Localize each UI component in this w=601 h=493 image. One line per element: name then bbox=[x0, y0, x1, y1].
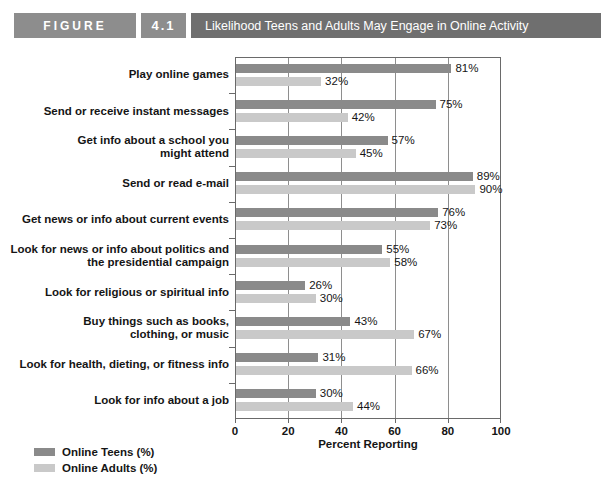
bar-value-label: 31% bbox=[322, 353, 345, 362]
bar-group-teens: 57% bbox=[236, 136, 415, 145]
category-label: Look for health, dieting, or fitness inf… bbox=[9, 358, 229, 372]
bar-group-teens: 26% bbox=[236, 281, 332, 290]
bar-adults[interactable] bbox=[236, 221, 430, 230]
legend-item[interactable]: Online Teens (%) bbox=[34, 444, 157, 459]
bar-teens[interactable] bbox=[236, 317, 350, 326]
chart-row: Play online games81%32% bbox=[0, 57, 601, 93]
category-label: Buy things such as books,clothing, or mu… bbox=[9, 315, 229, 342]
bar-teens[interactable] bbox=[236, 64, 451, 73]
bar-teens[interactable] bbox=[236, 100, 436, 109]
figure-word-box: FIGURE bbox=[14, 13, 136, 38]
bar-value-label: 89% bbox=[477, 172, 500, 181]
x-tick-label: 0 bbox=[232, 425, 238, 437]
bar-adults[interactable] bbox=[236, 330, 414, 339]
category-label: Look for religious or spiritual info bbox=[9, 286, 229, 300]
x-tick-label: 40 bbox=[335, 425, 348, 437]
bar-group-teens: 43% bbox=[236, 317, 377, 326]
bar-group-teens: 31% bbox=[236, 353, 345, 362]
category-label: Play online games bbox=[9, 68, 229, 82]
tick-mark-80 bbox=[448, 419, 449, 423]
chart-row: Look for health, dieting, or fitness inf… bbox=[0, 347, 601, 383]
bar-group-adults: 42% bbox=[236, 113, 375, 122]
x-tick-label: 80 bbox=[441, 425, 454, 437]
y-axis-tick bbox=[229, 347, 235, 348]
legend-item[interactable]: Online Adults (%) bbox=[34, 460, 157, 475]
bar-group-adults: 58% bbox=[236, 258, 417, 267]
bar-teens[interactable] bbox=[236, 353, 318, 362]
category-label: Look for news or info about politics and… bbox=[9, 243, 229, 270]
bar-teens[interactable] bbox=[236, 281, 305, 290]
bar-teens[interactable] bbox=[236, 389, 316, 398]
y-axis-tick bbox=[229, 310, 235, 311]
row-bars: 43%67% bbox=[236, 310, 601, 346]
y-axis-tick bbox=[229, 93, 235, 94]
bar-group-teens: 30% bbox=[236, 389, 343, 398]
category-label: Get news or info about current events bbox=[9, 213, 229, 227]
tick-mark-100 bbox=[500, 419, 501, 423]
bar-value-label: 67% bbox=[418, 330, 441, 339]
bar-group-teens: 89% bbox=[236, 172, 500, 181]
bar-value-label: 44% bbox=[357, 402, 380, 411]
chart-row: Get news or info about current events76%… bbox=[0, 202, 601, 238]
figure-number-box: 4.1 bbox=[141, 13, 186, 38]
bar-value-label: 90% bbox=[479, 185, 502, 194]
bar-value-label: 73% bbox=[434, 221, 457, 230]
y-axis-tick bbox=[229, 202, 235, 203]
bar-adults[interactable] bbox=[236, 258, 390, 267]
category-label: Look for info about a job bbox=[9, 394, 229, 408]
bar-adults[interactable] bbox=[236, 77, 321, 86]
chart-row: Buy things such as books,clothing, or mu… bbox=[0, 310, 601, 346]
bar-value-label: 58% bbox=[394, 258, 417, 267]
bar-value-label: 42% bbox=[352, 113, 375, 122]
bar-adults[interactable] bbox=[236, 402, 353, 411]
row-bars: 55%58% bbox=[236, 238, 601, 274]
y-axis-tick bbox=[229, 238, 235, 239]
bar-group-adults: 45% bbox=[236, 149, 383, 158]
y-axis-tick bbox=[229, 166, 235, 167]
y-axis-tick bbox=[229, 383, 235, 384]
bar-rows: Play online games81%32%Send or receive i… bbox=[0, 57, 601, 419]
bar-teens[interactable] bbox=[236, 172, 473, 181]
bar-teens[interactable] bbox=[236, 245, 382, 254]
y-axis-tick bbox=[229, 129, 235, 130]
bar-value-label: 81% bbox=[455, 64, 478, 73]
row-bars: 81%32% bbox=[236, 57, 601, 93]
category-label: Send or read e-mail bbox=[9, 177, 229, 191]
bar-value-label: 57% bbox=[392, 136, 415, 145]
figure-header-band: FIGURE 4.1 Likelihood Teens and Adults M… bbox=[0, 13, 601, 38]
bar-adults[interactable] bbox=[236, 149, 356, 158]
chart-row: Send or receive instant messages75%42% bbox=[0, 93, 601, 129]
bar-group-teens: 75% bbox=[236, 100, 463, 109]
bar-value-label: 30% bbox=[320, 389, 343, 398]
row-bars: 75%42% bbox=[236, 93, 601, 129]
bar-teens[interactable] bbox=[236, 136, 388, 145]
chart-row: Look for news or info about politics and… bbox=[0, 238, 601, 274]
row-bars: 26%30% bbox=[236, 274, 601, 310]
legend-swatch bbox=[34, 464, 55, 472]
bar-value-label: 26% bbox=[309, 281, 332, 290]
row-bars: 57%45% bbox=[236, 129, 601, 165]
row-bars: 30%44% bbox=[236, 383, 601, 419]
bar-adults[interactable] bbox=[236, 366, 412, 375]
chart-container: Play online games81%32%Send or receive i… bbox=[0, 44, 601, 493]
x-axis-title: Percent Reporting bbox=[235, 438, 501, 450]
bar-value-label: 76% bbox=[442, 208, 465, 217]
chart-row: Send or read e-mail89%90% bbox=[0, 166, 601, 202]
bar-value-label: 66% bbox=[416, 366, 439, 375]
bar-value-label: 55% bbox=[386, 245, 409, 254]
bar-group-adults: 90% bbox=[236, 185, 502, 194]
row-bars: 31%66% bbox=[236, 347, 601, 383]
bar-group-adults: 44% bbox=[236, 402, 380, 411]
chart-legend: Online Teens (%)Online Adults (%) bbox=[34, 444, 157, 476]
bar-teens[interactable] bbox=[236, 208, 438, 217]
y-axis-tick bbox=[229, 274, 235, 275]
row-bars: 76%73% bbox=[236, 202, 601, 238]
bar-adults[interactable] bbox=[236, 294, 316, 303]
bar-group-teens: 76% bbox=[236, 208, 465, 217]
bar-group-adults: 32% bbox=[236, 77, 348, 86]
tick-mark-0 bbox=[235, 419, 236, 423]
bar-value-label: 32% bbox=[325, 77, 348, 86]
bar-adults[interactable] bbox=[236, 185, 475, 194]
chart-row: Look for religious or spiritual info26%3… bbox=[0, 274, 601, 310]
bar-adults[interactable] bbox=[236, 113, 348, 122]
